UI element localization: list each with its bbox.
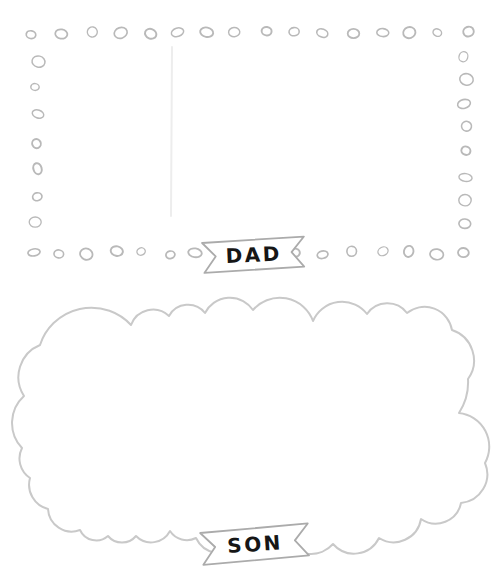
dot xyxy=(32,162,43,175)
dot xyxy=(461,120,473,132)
dot xyxy=(86,26,98,38)
dot xyxy=(429,248,444,260)
dot xyxy=(347,246,357,256)
dad-frame-writing-area xyxy=(55,50,450,235)
dot xyxy=(31,55,46,69)
dot xyxy=(459,219,471,229)
dot xyxy=(27,248,40,257)
dot xyxy=(432,27,443,37)
dot xyxy=(403,245,415,258)
dot xyxy=(402,25,417,39)
dot xyxy=(32,192,43,202)
dot xyxy=(188,247,203,258)
dot xyxy=(136,247,146,257)
worksheet-canvas: DAD SON xyxy=(0,0,502,574)
dot xyxy=(316,250,328,260)
dot xyxy=(170,26,185,38)
dot xyxy=(459,194,472,206)
dot xyxy=(53,249,64,258)
dot xyxy=(459,72,475,86)
dot xyxy=(110,245,124,257)
dot xyxy=(458,50,470,63)
dot xyxy=(78,247,94,262)
dot xyxy=(377,245,390,257)
dot xyxy=(29,217,41,227)
dot xyxy=(458,248,469,258)
dot xyxy=(31,138,43,150)
dot xyxy=(261,26,272,36)
dot xyxy=(460,145,472,156)
dad-banner: DAD xyxy=(202,237,305,273)
worksheet-page: DAD SON xyxy=(0,0,502,574)
dot xyxy=(199,26,214,38)
dot xyxy=(377,28,390,37)
dot xyxy=(165,250,176,259)
dot xyxy=(144,27,158,40)
dot xyxy=(113,26,129,40)
son-frame-writing-area xyxy=(60,335,440,515)
dot xyxy=(289,27,300,36)
dad-banner-label: DAD xyxy=(225,242,282,268)
dot xyxy=(55,28,69,39)
dot xyxy=(30,83,39,91)
dot xyxy=(348,29,360,38)
dot xyxy=(228,27,240,37)
dot xyxy=(31,108,45,119)
dot xyxy=(457,98,472,109)
son-banner-label: SON xyxy=(226,530,283,558)
son-banner: SON xyxy=(200,523,310,564)
dot xyxy=(458,173,472,182)
dot xyxy=(462,25,475,37)
dot xyxy=(26,30,37,39)
dot xyxy=(316,27,329,38)
